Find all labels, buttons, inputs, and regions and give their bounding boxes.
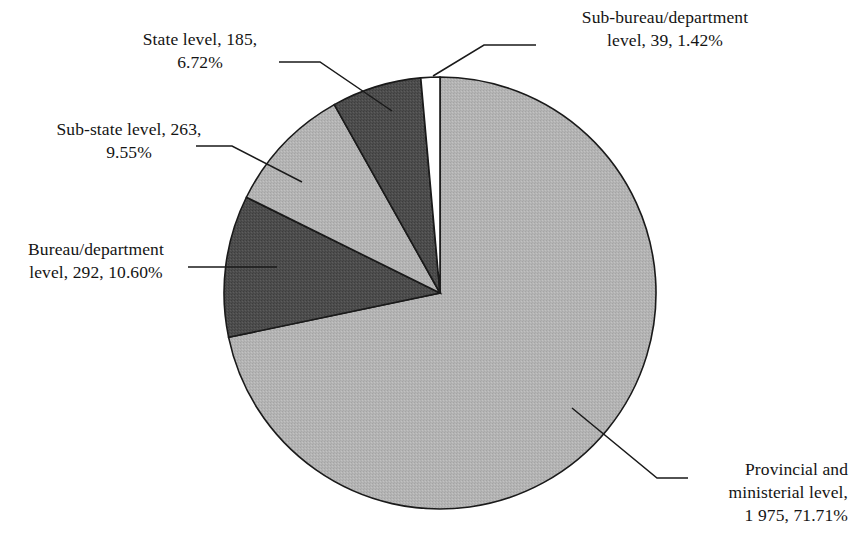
slice-label-provincial-and-ministerial-level: Provincial and ministerial level, 1 975,… [672,458,848,527]
pie-chart-figure: State level, 185, 6.72% Sub-bureau/depar… [0,0,850,534]
slice-label-sub-bureau-department-level: Sub-bureau/department level, 39, 1.42% [520,6,810,52]
slice-label-state-level: State level, 185, 6.72% [90,28,310,74]
slice-label-sub-state-level: Sub-state level, 263, 9.55% [14,118,244,164]
slice-label-bureau-department-level: Bureau/department level, 292, 10.60% [0,238,192,284]
